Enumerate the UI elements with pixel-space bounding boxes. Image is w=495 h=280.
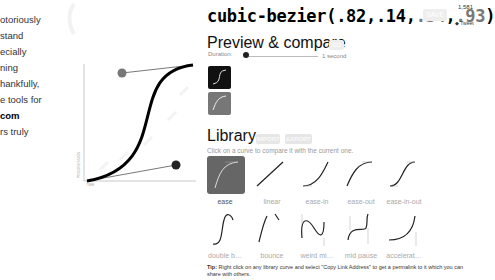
tweet-count: 1,581 — [458, 4, 473, 10]
intro-line: ecially — [0, 44, 62, 60]
ease-out-curve-icon — [342, 156, 380, 194]
library-curve-double-bounce[interactable] — [207, 210, 245, 248]
tip-label: Tip: — [207, 264, 217, 270]
bezier-editor-canvas[interactable]: PROGRESSION TIME — [60, 50, 210, 200]
library-label: ease-out — [338, 198, 384, 205]
library-curve-linear[interactable] — [253, 156, 291, 194]
library-label: mid pause — [338, 252, 384, 259]
duration-label: Duration: — [208, 51, 232, 57]
accelerate-curve-icon — [385, 210, 423, 248]
preview-heading: Preview & compare — [207, 34, 346, 52]
preview-compare-box[interactable] — [208, 92, 231, 115]
duration-slider-handle[interactable] — [243, 52, 249, 58]
weird-mid-curve-icon — [298, 210, 336, 248]
ease-in-curve-icon — [298, 156, 336, 194]
save-button[interactable]: SAVE — [423, 9, 447, 21]
title-prefix: cubic-bezier( — [207, 6, 336, 26]
current-curve-icon — [208, 66, 231, 89]
intro-line: rs truly — [0, 124, 62, 140]
export-button[interactable]: EXPORT — [285, 134, 312, 144]
value-p2: .14 — [376, 6, 406, 26]
tip-body: Right click on any library curve and sel… — [207, 264, 463, 277]
title-suffix: ) — [485, 6, 495, 26]
twitter-icon: ◆ — [455, 20, 459, 26]
library-curve-bounce[interactable] — [253, 210, 291, 248]
duration-slider[interactable] — [248, 56, 318, 57]
tweet-button[interactable]: ◆ Tweet — [455, 20, 474, 26]
duration-value: 1 second — [322, 53, 346, 59]
tip-text: Tip: Right click on any library curve an… — [207, 264, 477, 278]
library-curve-ease-out[interactable] — [342, 156, 380, 194]
library-label: accelerat… — [381, 252, 427, 259]
control-point-1-handle[interactable] — [172, 161, 181, 170]
intro-line: e tools for — [0, 92, 62, 108]
library-heading: Library — [207, 127, 256, 145]
y-axis-label: PROGRESSION — [77, 151, 81, 178]
library-label: ease-in — [294, 198, 340, 205]
import-button[interactable]: IMPORT — [256, 134, 280, 144]
mid-pause-curve-icon — [342, 210, 380, 248]
x-axis-label: TIME — [86, 183, 95, 187]
library-label: double b… — [202, 252, 248, 259]
library-subtitle: Click on a curve to compare it with the … — [207, 147, 353, 154]
library-label: weird mi… — [294, 252, 340, 259]
intro-line: ning — [0, 60, 62, 76]
library-curve-mid-pause[interactable] — [342, 210, 380, 248]
preview-current-box[interactable] — [208, 66, 231, 89]
library-curve-accelerate[interactable] — [385, 210, 423, 248]
tweet-label: Tweet — [460, 20, 473, 26]
library-label: ease — [202, 198, 248, 205]
library-curve-weird-mid[interactable] — [298, 210, 336, 248]
library-label: ease-in-out — [381, 198, 427, 205]
library-curve-ease-in-out[interactable] — [385, 156, 423, 194]
intro-line: hankfully, — [0, 76, 62, 92]
linear-curve-icon — [253, 156, 291, 194]
bounce-curve-icon — [253, 210, 291, 248]
cubic-bezier-value[interactable]: cubic-bezier(.82,.14,.34,.93) — [207, 6, 495, 26]
compare-curve-icon — [208, 92, 231, 115]
intro-line: stand — [0, 28, 62, 44]
ease-curve-icon — [207, 156, 245, 194]
library-label: bounce — [249, 252, 295, 259]
library-label: linear — [249, 198, 295, 205]
intro-link[interactable]: com — [0, 108, 62, 124]
ease-in-out-curve-icon — [385, 156, 423, 194]
library-curve-ease-in[interactable] — [298, 156, 336, 194]
intro-line: otoriously — [0, 12, 62, 28]
go-button[interactable]: GO — [329, 40, 344, 50]
value-p1: .82 — [336, 6, 366, 26]
watermark-icon — [64, 2, 84, 36]
double-bounce-curve-icon — [207, 210, 245, 248]
library-curve-ease[interactable] — [207, 156, 245, 194]
control-point-2-handle[interactable] — [118, 69, 127, 78]
intro-text: otoriously stand ecially ning hankfully,… — [0, 12, 62, 140]
